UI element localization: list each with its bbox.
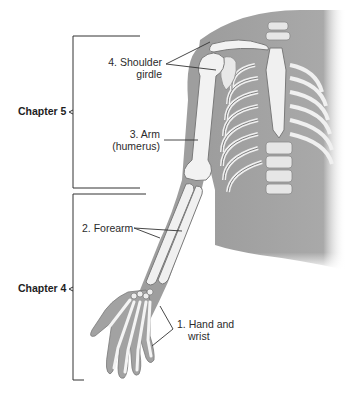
label-hand-wrist-line2: wrist <box>177 330 234 342</box>
label-shoulder-girdle-line2: girdle <box>96 68 162 80</box>
label-hand-wrist-line1: 1. Hand and <box>177 318 234 330</box>
label-forearm-line1: 2. Forearm <box>82 222 133 234</box>
label-shoulder-girdle-line1: 4. Shoulder <box>96 56 162 68</box>
label-forearm: 2. Forearm <box>82 222 133 234</box>
upper-limb-illustration <box>0 0 346 394</box>
label-arm: 3. Arm (humerus) <box>96 128 160 152</box>
chapter-4-label: Chapter 4 <box>18 282 66 294</box>
label-arm-line1: 3. Arm <box>96 128 160 140</box>
label-shoulder-girdle: 4. Shoulder girdle <box>96 56 162 80</box>
label-hand-wrist: 1. Hand and wrist <box>177 318 234 342</box>
label-arm-line2: (humerus) <box>96 140 160 152</box>
chapter-5-label: Chapter 5 <box>18 105 66 117</box>
